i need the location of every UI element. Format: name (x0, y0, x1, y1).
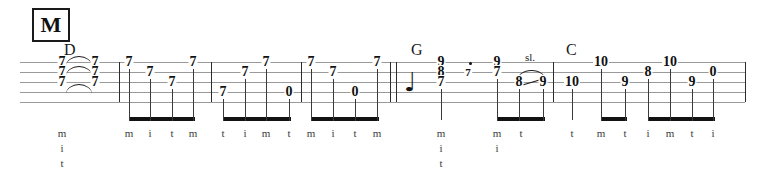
fingering-group: t (623, 126, 626, 141)
fingering-group: mit (437, 126, 446, 171)
fingering-group: m (666, 126, 675, 141)
fret-number: 9 (539, 75, 548, 89)
rehearsal-mark-box: M (32, 8, 70, 42)
fingering-group: m (597, 126, 606, 141)
fret-number: 8 (644, 65, 653, 79)
fret-number: 7 (464, 67, 472, 78)
fingering-group: i (243, 126, 246, 141)
note-stem (497, 72, 498, 121)
fingering-group: m (373, 126, 382, 141)
fingering-letter: m (493, 126, 502, 141)
beam (223, 117, 291, 121)
barline (745, 62, 746, 102)
fingering-group: t (690, 126, 693, 141)
barline (119, 62, 120, 102)
fingering-group: mit (58, 126, 67, 171)
fret-number: 0 (285, 85, 294, 99)
fret-number: 7 (219, 85, 228, 99)
fret-number: 7 (373, 55, 382, 69)
fret-number: 7 (493, 65, 502, 79)
fingering-letter: i (439, 141, 442, 156)
note-stem (601, 62, 602, 121)
fingering-group: m (125, 126, 134, 141)
fingering-letter: t (170, 127, 173, 139)
barline (211, 62, 212, 102)
fingering-letter: t (690, 127, 693, 139)
fingering-letter: m (58, 126, 67, 141)
fret-number: 7 (437, 75, 446, 89)
note-stem (245, 72, 246, 121)
fingering-letter: t (623, 127, 626, 139)
fret-number: 8 (515, 75, 524, 89)
fingering-letter: i (60, 141, 63, 156)
fret-number: 7 (307, 55, 316, 69)
fingering-group: i (646, 126, 649, 141)
fret-number: 10 (662, 55, 678, 69)
note-stem (333, 72, 334, 121)
fret-number: 0 (351, 85, 360, 99)
fret-number: 9 (688, 75, 697, 89)
tie-arc (66, 84, 92, 94)
fret-number: 0 (709, 65, 718, 79)
fret-number: 10 (593, 55, 609, 69)
barline (301, 62, 302, 102)
fret-number: 7 (189, 55, 198, 69)
fret-number: 7 (58, 75, 67, 89)
chord-symbol-c: C (566, 42, 577, 58)
fingering-group: i (711, 126, 714, 141)
fingering-letter: m (666, 127, 675, 139)
fingering-letter: m (262, 127, 271, 139)
fingering-group: t (221, 126, 224, 141)
fret-number: 7 (125, 55, 134, 69)
fret-number: 7 (91, 75, 100, 89)
fingering-group: t (570, 126, 573, 141)
fingering-group: m (307, 126, 316, 141)
note-stem (311, 62, 312, 121)
note-stem (648, 72, 649, 121)
fingering-letter: i (331, 127, 334, 139)
fingering-group: t (519, 126, 522, 141)
note-stem (266, 62, 267, 121)
note-stem (150, 72, 151, 121)
note-stem (193, 62, 194, 121)
fret-number: 7 (146, 65, 155, 79)
fingering-letter: m (189, 127, 198, 139)
rehearsal-mark-label: M (41, 14, 62, 36)
note-stem (377, 62, 378, 121)
fret-number: 10 (564, 75, 580, 89)
fret-number: 7 (329, 65, 338, 79)
fret-number: 7 (262, 55, 271, 69)
fingering-letter: t (287, 127, 290, 139)
fingering-letter: m (307, 127, 316, 139)
fret-number: 7 (241, 65, 250, 79)
beam (601, 117, 627, 121)
note-stem (713, 72, 714, 121)
fingering-letter: m (597, 127, 606, 139)
tie-arc (66, 56, 92, 66)
fingering-group: m (262, 126, 271, 141)
fingering-group: t (353, 126, 356, 141)
fingering-letter: t (439, 156, 442, 171)
beam (648, 117, 715, 121)
fingering-group: t (170, 126, 173, 141)
fingering-letter: i (711, 127, 714, 139)
fingering-letter: t (353, 127, 356, 139)
fingering-group: mi (493, 126, 502, 156)
barline (553, 62, 554, 102)
chord-symbol-g: G (411, 42, 423, 58)
note-stem (129, 62, 130, 121)
beam (497, 117, 545, 121)
fingering-letter: i (243, 127, 246, 139)
fingering-group: t (287, 126, 290, 141)
fingering-letter: t (519, 127, 522, 139)
note-stem (670, 62, 671, 121)
tablature-sheet: M DGC sl. ♩ 7777777777777077079877978910… (0, 0, 761, 177)
beam (311, 117, 379, 121)
fingering-letter: m (373, 127, 382, 139)
fingering-group: i (331, 126, 334, 141)
tie-arc (66, 66, 92, 76)
quarter-rest: ♩ (404, 69, 416, 95)
fingering-letter: m (125, 127, 134, 139)
staccato-dot (469, 62, 472, 65)
fingering-group: m (189, 126, 198, 141)
